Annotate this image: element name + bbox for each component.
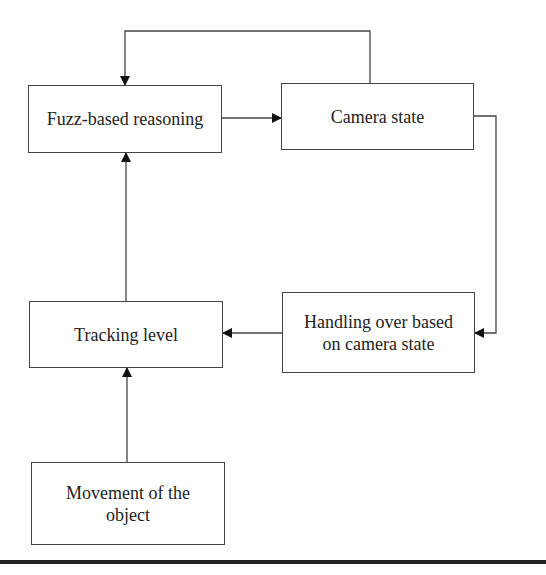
node-label: Fuzz-based reasoning (47, 108, 203, 130)
node-tracking-level: Tracking level (29, 301, 223, 368)
bottom-rule (0, 560, 546, 564)
node-label: Tracking level (74, 324, 178, 346)
node-movement-of-object: Movement of the object (31, 462, 225, 545)
edge-camera-to-fuzz (125, 31, 370, 85)
node-handling-over: Handling over based on camera state (282, 292, 475, 373)
node-label: Handling over based on camera state (297, 311, 460, 355)
node-camera-state: Camera state (281, 83, 474, 150)
node-fuzz-based-reasoning: Fuzz-based reasoning (28, 85, 222, 153)
node-label: Movement of the object (56, 482, 200, 526)
node-label: Camera state (331, 106, 424, 128)
edge-camera-to-handling (474, 116, 496, 333)
